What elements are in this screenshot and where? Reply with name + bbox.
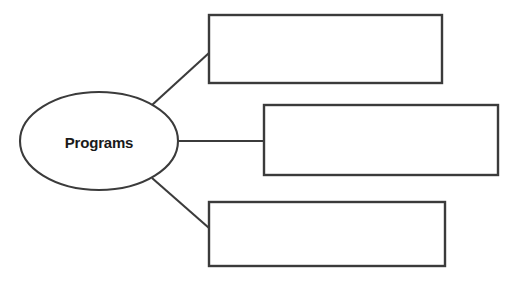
center-node-label: Programs: [65, 134, 133, 151]
connector-line-branch-1: [152, 53, 209, 105]
branch-box-3[interactable]: [209, 202, 445, 266]
branch-box-1[interactable]: [209, 15, 442, 83]
connector-line-branch-3: [152, 178, 209, 228]
branch-box-2[interactable]: [264, 105, 498, 175]
concept-map-diagram: Programs: [0, 0, 515, 284]
